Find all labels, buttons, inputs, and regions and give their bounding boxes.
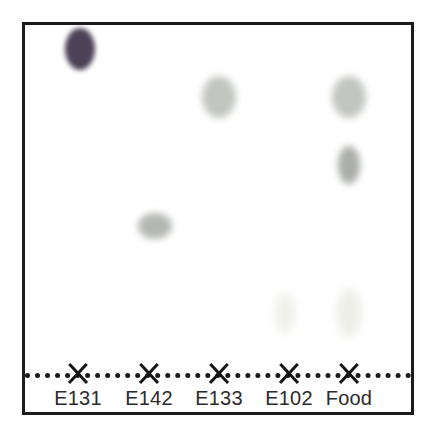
lane-tick-x-icon: [65, 360, 91, 386]
chromatography-spot: [332, 76, 366, 118]
lane-tick-x-icon: [206, 360, 232, 386]
chromatography-spot: [275, 292, 295, 334]
lane-tick-x-icon: [136, 360, 162, 386]
chromatography-spot: [202, 76, 236, 118]
chromatography-spot: [138, 213, 172, 239]
chromatography-spot: [338, 146, 360, 184]
chromatography-spot: [65, 28, 95, 70]
plate-drawing-area: E131E142E133E102Food: [25, 25, 411, 412]
lane-label-food: Food: [304, 387, 394, 409]
chromatography-plate: E131E142E133E102Food: [22, 22, 414, 415]
tlc-chromatogram-figure: E131E142E133E102Food: [0, 0, 430, 432]
lane-tick-x-icon: [276, 360, 302, 386]
lane-tick-x-icon: [336, 360, 362, 386]
chromatography-spot: [337, 288, 361, 338]
